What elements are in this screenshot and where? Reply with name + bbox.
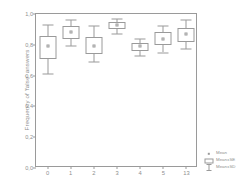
x-tick-label: 0 — [46, 166, 49, 176]
whisker-cap-upper — [181, 20, 192, 21]
mean-marker — [185, 33, 188, 36]
y-tick-label: 0,8 — [25, 42, 36, 48]
x-tick-label: 2 — [92, 166, 95, 176]
y-tick-label: 0,2 — [25, 134, 36, 140]
sd-cap-glyph — [206, 164, 211, 165]
se-box-icon — [203, 157, 214, 164]
box-plot-chart: Frequency of 'false' answers 0,00,20,40,… — [0, 0, 242, 186]
legend-label: Mean±SD — [216, 165, 236, 169]
legend-item: Mean±SD — [203, 164, 242, 171]
legend-label: Mean±SE — [216, 158, 235, 162]
mean-dot-glyph — [207, 152, 209, 154]
plot-area: 0,00,20,40,60,81,0 01234513 — [35, 13, 197, 167]
sd-whisker-icon — [203, 164, 214, 171]
x-tick-label: 4 — [139, 166, 142, 176]
y-axis-title: Frequency of 'false' answers — [20, 13, 32, 167]
y-tick-label: 1,0 — [25, 11, 36, 17]
legend-item: Mean±SE — [203, 157, 242, 164]
legend: MeanMean±SEMean±SD — [203, 150, 242, 171]
y-tick-label: 0,4 — [25, 103, 36, 109]
x-tick-label: 13 — [183, 166, 189, 176]
mean-marker-icon — [203, 150, 214, 157]
whisker-cap-lower — [181, 49, 192, 50]
y-tick-label: 0,0 — [25, 165, 36, 171]
x-tick-label: 1 — [69, 166, 72, 176]
legend-label: Mean — [216, 151, 227, 155]
legend-item: Mean — [203, 150, 242, 157]
x-tick-label: 5 — [162, 166, 165, 176]
x-tick-label: 3 — [115, 166, 118, 176]
y-tick-label: 0,6 — [25, 73, 36, 79]
box-plot-group — [36, 14, 198, 166]
se-box-glyph — [204, 158, 213, 163]
sd-cap-glyph — [206, 170, 211, 171]
